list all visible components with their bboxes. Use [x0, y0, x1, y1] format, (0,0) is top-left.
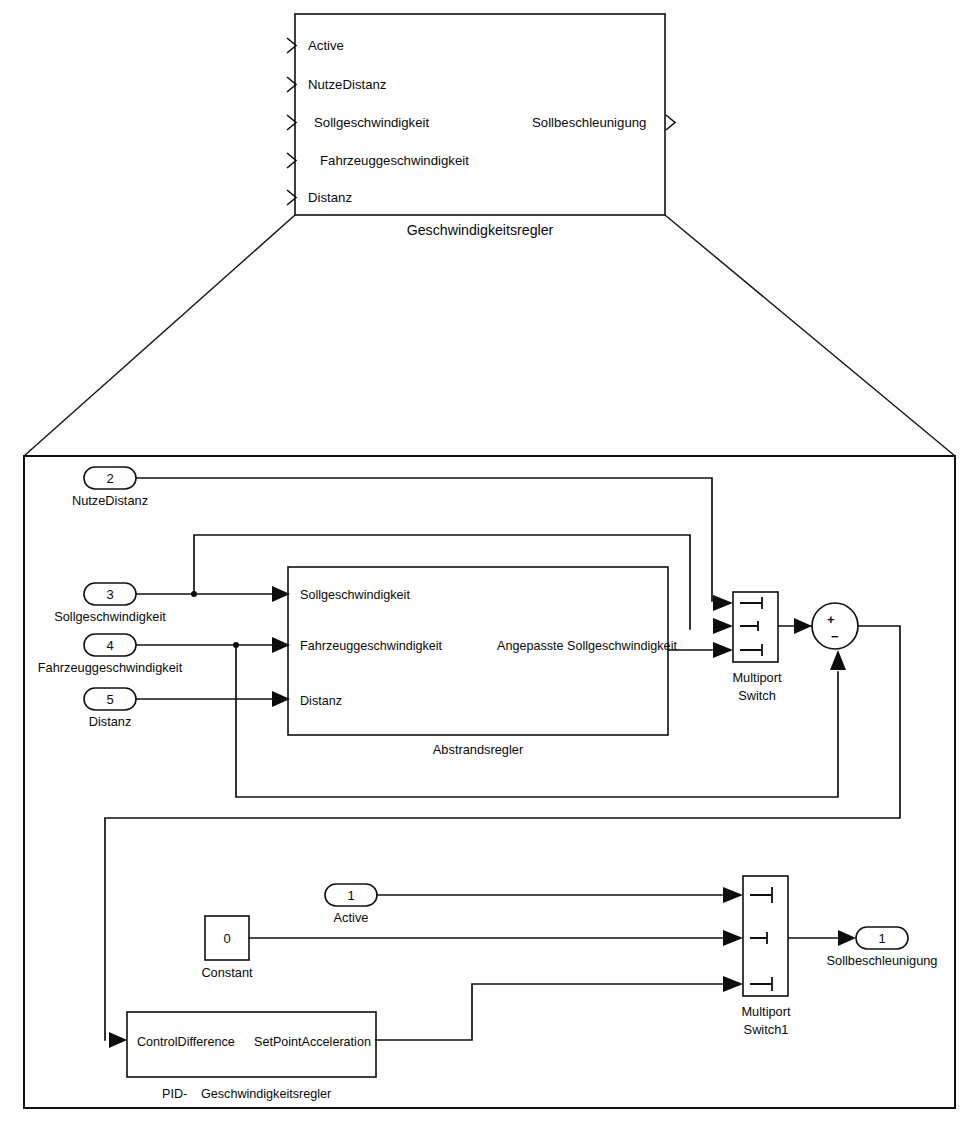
inport-label-distanz: Distanz [89, 714, 132, 729]
multiport-switch-name-line1: Multiport [732, 670, 782, 685]
constant-name: Constant [201, 965, 253, 980]
inport-number-2: 2 [106, 471, 113, 486]
top-port-label-sollbeschleunigung: Sollbeschleunigung [532, 115, 646, 130]
top-block-output-port [666, 115, 675, 130]
inport-number-4: 4 [106, 638, 113, 653]
pid-block-name-prefix: PID- [162, 1087, 187, 1101]
top-port-label-nutzedistanz: NutzeDistanz [308, 77, 386, 92]
abstrandsregler-input-3: Distanz [300, 694, 342, 708]
top-port-label-active: Active [308, 38, 344, 53]
subsystem-boundary [24, 456, 955, 1108]
top-port-label-fahrzeuggeschwindigkeit: Fahrzeuggeschwindigkeit [320, 153, 469, 168]
inport-label-nutzedistanz: NutzeDistanz [72, 493, 148, 508]
constant-value: 0 [223, 931, 230, 946]
inport-number-5: 5 [106, 692, 113, 707]
outport-number-1: 1 [878, 931, 885, 946]
inport-distanz[interactable]: 5 Distanz [84, 688, 136, 729]
pid-block-name-rest: Geschwindigkeitsregler [201, 1087, 331, 1101]
outport-label-sollbeschleunigung: Sollbeschleunigung [827, 953, 938, 968]
abstrandsregler-input-2: Fahrzeuggeschwindigkeit [300, 639, 443, 653]
inport-number-1: 1 [347, 888, 354, 903]
block-diagram-canvas: Active NutzeDistanz Sollgeschwindigkeit … [0, 0, 976, 1125]
inport-number-3: 3 [106, 587, 113, 602]
top-subsystem-block[interactable]: Active NutzeDistanz Sollgeschwindigkeit … [287, 14, 675, 238]
constant-block[interactable]: 0 Constant [201, 916, 253, 980]
pid-input-label: ControlDifference [137, 1035, 235, 1049]
abstrandsregler-output-1: Angepasste Sollgeschwindigkeit [497, 639, 677, 653]
signal-junction-dot [233, 642, 239, 648]
abstrandsregler-input-1: Sollgeschwindigkeit [300, 588, 410, 602]
inport-label-sollgeschwindigkeit: Sollgeschwindigkeit [54, 609, 166, 624]
inport-label-fahrzeuggeschwindigkeit: Fahrzeuggeschwindigkeit [38, 660, 183, 675]
pid-output-label: SetPointAcceleration [254, 1035, 371, 1049]
sum-plus-sign: + [827, 612, 835, 627]
top-port-label-distanz: Distanz [308, 190, 352, 205]
abstrandsregler-name: Abstrandsregler [433, 742, 524, 757]
abstrandsregler-block[interactable]: Sollgeschwindigkeit Fahrzeuggeschwindigk… [272, 567, 677, 757]
signal-junction-dot [191, 591, 197, 597]
sum-minus-sign: − [831, 629, 839, 644]
top-port-label-sollgeschwindigkeit: Sollgeschwindigkeit [314, 115, 429, 130]
top-block-name: Geschwindigkeitsregler [407, 222, 554, 238]
multiport-switch1-name-line2: Switch1 [744, 1022, 789, 1037]
inport-label-active: Active [334, 910, 369, 925]
multiport-switch-name-line2: Switch [738, 688, 776, 703]
multiport-switch1-name-line1: Multiport [741, 1004, 791, 1019]
subsystem-expansion-lines [24, 215, 955, 456]
